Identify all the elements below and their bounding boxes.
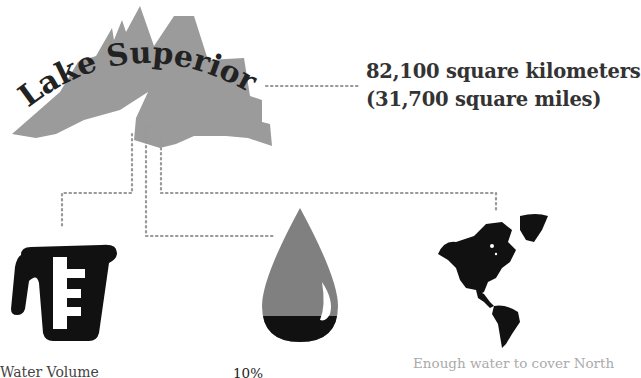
area-km: 82,100 square kilometers [366, 58, 626, 86]
area-text: 82,100 square kilometers (31,700 square … [366, 58, 626, 114]
area-miles: (31,700 square miles) [366, 86, 626, 114]
fact-caption-volume: Water Volume [0, 364, 99, 378]
fact-caption-percent: 10% [233, 365, 263, 378]
fact-caption-coverage: Enough water to cover North [413, 355, 614, 371]
measuring-cup-icon [5, 237, 121, 343]
water-drop-icon [258, 206, 342, 346]
americas-map-icon [436, 210, 556, 350]
